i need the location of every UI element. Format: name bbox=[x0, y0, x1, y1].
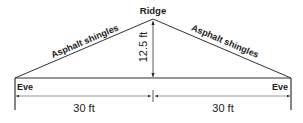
left-span-label: 30 ft bbox=[73, 102, 94, 114]
height-label: 12.5 ft bbox=[137, 32, 149, 63]
right-roof-slope bbox=[153, 19, 291, 78]
right-slope-label: Asphalt shingles bbox=[190, 23, 260, 60]
left-slope-label: Asphalt shingles bbox=[50, 23, 120, 60]
left-eave-label: Eve bbox=[17, 82, 33, 92]
right-span-label: 30 ft bbox=[212, 102, 233, 114]
left-roof-slope bbox=[15, 19, 153, 78]
right-eave-label: Eve bbox=[272, 82, 288, 92]
ridge-label: Ridge bbox=[140, 5, 166, 16]
roof-diagram: Ridge Asphalt shingles Asphalt shingles … bbox=[0, 0, 303, 123]
